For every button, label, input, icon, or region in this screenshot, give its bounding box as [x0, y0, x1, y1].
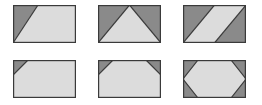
diagonal-split-rectangle	[13, 5, 76, 43]
shape-figure-canvas	[0, 0, 262, 105]
diagonal-band-rectangle	[183, 5, 246, 43]
hexagon-in-rectangle	[183, 60, 246, 98]
single-corner-cut-rectangle	[13, 60, 76, 98]
two-corner-cut-rectangle	[98, 60, 161, 98]
upward-triangle-rectangle	[98, 5, 161, 43]
